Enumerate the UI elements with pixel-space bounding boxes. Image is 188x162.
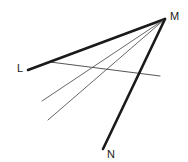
- vertex-label-N: N: [107, 148, 115, 160]
- figure-canvas: L M N: [0, 0, 188, 162]
- figure-background: [0, 0, 188, 162]
- geometry-figure: L M N: [0, 0, 188, 162]
- vertex-label-L: L: [17, 62, 23, 74]
- vertex-label-M: M: [170, 10, 179, 22]
